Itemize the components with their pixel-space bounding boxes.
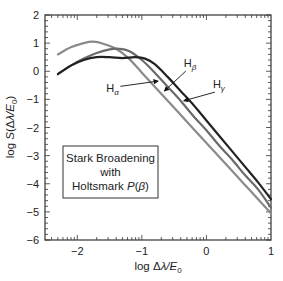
annotation-h-beta: Hβ	[184, 57, 197, 72]
x-tick-label: −2	[71, 245, 84, 257]
annotation-arrow-h-beta	[164, 71, 185, 91]
tick-labels: −2−101−6−5−4−3−2−1012	[26, 9, 274, 257]
annotation-arrow-h-gamma	[184, 92, 215, 101]
y-tick-label: −1	[26, 93, 39, 105]
annotation-h-gamma: Hγ	[213, 78, 226, 93]
y-tick-label: −3	[26, 150, 39, 162]
y-tick-label: −4	[26, 178, 39, 190]
y-axis-title: log S(Δλ/E0)	[4, 96, 19, 159]
legend-line: Stark Broadening	[66, 152, 155, 164]
plot-border	[45, 15, 271, 240]
y-tick-label: −5	[26, 206, 39, 218]
plot-frame	[45, 15, 271, 240]
legend-line: Holtsmark P(β)	[72, 180, 149, 192]
y-tick-label: 0	[33, 65, 39, 77]
y-tick-label: 1	[33, 37, 39, 49]
y-tick-label: −2	[26, 122, 39, 134]
x-tick-label: 0	[203, 245, 209, 257]
x-tick-label: 1	[268, 245, 274, 257]
y-tick-label: −6	[26, 234, 39, 246]
legend-box: Stark BroadeningwithHoltsmark P(β)	[63, 146, 158, 198]
annotation-h-alpha: Hα	[106, 82, 119, 97]
annotations: HαHβHγ	[106, 57, 225, 101]
x-axis-title: log Δλ/E0	[134, 260, 182, 275]
axis-ticks	[45, 15, 271, 240]
stark-broadening-chart: −2−101−6−5−4−3−2−1012 HαHβHγ Stark Broad…	[0, 0, 283, 281]
y-tick-label: 2	[33, 9, 39, 21]
x-tick-label: −1	[136, 245, 149, 257]
legend-line: with	[99, 166, 120, 178]
